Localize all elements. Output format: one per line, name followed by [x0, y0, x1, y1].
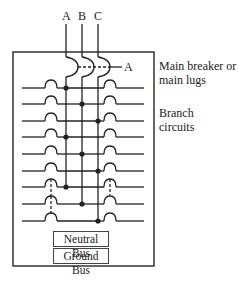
main-breaker: [66, 57, 122, 77]
branch-circuits: [22, 80, 144, 224]
main-breaker-label-line2: main lugs: [159, 73, 236, 87]
main-breaker-label: Main breaker or main lugs: [159, 59, 236, 87]
phase-label-b: B: [78, 10, 86, 22]
branch-circuits-label-line2: circuits: [159, 120, 194, 134]
ground-bus: Ground Bus: [53, 248, 109, 264]
neutral-bus: Neutral Bus: [53, 231, 109, 247]
branch-circuits-label-line1: Branch: [159, 106, 194, 120]
phase-label-a: A: [62, 10, 71, 22]
branch-circuits-label: Branch circuits: [159, 106, 194, 134]
main-breaker-callout: A: [124, 60, 133, 74]
phase-bus-bars: [66, 77, 98, 221]
phase-label-c: C: [94, 10, 102, 22]
main-breaker-label-line1: Main breaker or: [159, 59, 236, 73]
panelboard-diagram: [0, 0, 239, 282]
